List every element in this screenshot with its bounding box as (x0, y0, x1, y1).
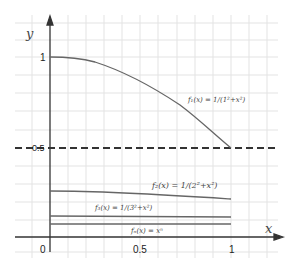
chart: y x 0 0.5 1 1 0.5 f₁(x) = 1/(1²+x²) f₂(x… (0, 0, 295, 263)
label-fn: fₙ(x) = xⁿ (130, 227, 163, 235)
curve-f3 (50, 216, 231, 217)
tick-x-one: 1 (229, 244, 235, 255)
y-axis-arrow-icon (47, 16, 53, 25)
tick-y-one: 1 (40, 52, 46, 63)
grid (15, 15, 278, 258)
label-f3: f₃(x) = 1/(3²+x²) (94, 204, 153, 212)
x-axis-label: x (265, 221, 273, 236)
label-f2: f₂(x) = 1/(2²+x²) (151, 181, 217, 190)
tick-origin: 0 (40, 244, 46, 255)
tick-x-half: 0.5 (133, 244, 147, 255)
y-axis-label: y (25, 26, 34, 41)
label-f1: f₁(x) = 1/(1²+x²) (187, 96, 246, 104)
x-axis-arrow-icon (274, 234, 283, 240)
tick-y-dash: 0.5 (32, 143, 45, 153)
